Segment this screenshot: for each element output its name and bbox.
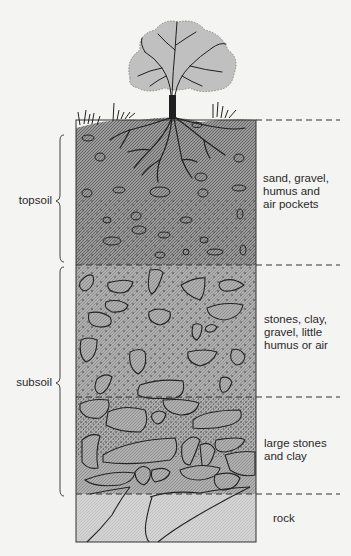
- layer2-line1: stones, clay,: [264, 313, 328, 326]
- topsoil-brace: [56, 135, 64, 262]
- layer4-description: rock: [273, 512, 295, 525]
- layer-topsoil: [76, 117, 256, 265]
- subsoil-brace: [56, 267, 64, 496]
- subsoil-label: subsoil: [0, 376, 52, 388]
- layer3-description: large stones and clay: [264, 437, 327, 463]
- tree-icon: [129, 21, 236, 119]
- layer2-description: stones, clay, gravel, little humus or ai…: [264, 313, 328, 352]
- layer2-line3: humus or air: [264, 339, 328, 352]
- layer-rock: [76, 494, 256, 542]
- soil-profile-illustration: [0, 0, 351, 556]
- layer1-description: sand, gravel, humus and air pockets: [263, 172, 329, 211]
- layer1-line3: air pockets: [263, 198, 329, 211]
- layer3-line1: large stones: [264, 437, 327, 450]
- layer4-line1: rock: [273, 512, 295, 525]
- topsoil-label: topsoil: [0, 194, 52, 206]
- layer1-line2: humus and: [263, 185, 329, 198]
- layer1-line1: sand, gravel,: [263, 172, 329, 185]
- layer2-line2: gravel, little: [264, 326, 328, 339]
- layer3-line2: and clay: [264, 450, 327, 463]
- braces: [56, 135, 64, 496]
